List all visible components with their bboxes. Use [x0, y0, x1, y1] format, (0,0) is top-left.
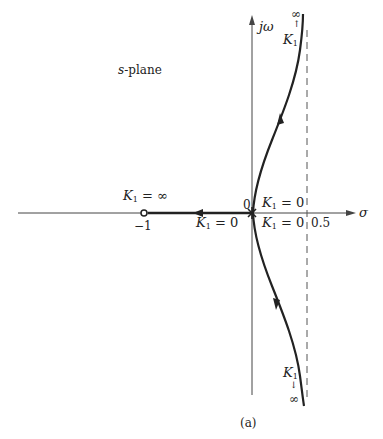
origin-label: 0: [243, 199, 251, 211]
real-axis-label: σ: [359, 206, 368, 219]
top-arrow-icon: ↑: [293, 20, 301, 29]
bottom-k-label: K1: [283, 366, 298, 381]
zero-gain-label: K1 = ∞: [123, 189, 168, 204]
pole-gain-label-left: K1 = 0: [196, 216, 238, 231]
pole-gain-label-right: K1 = 0: [262, 216, 304, 231]
bottom-infinity-label: ∞: [289, 393, 299, 405]
figure-caption: (a): [240, 417, 257, 429]
imag-axis-label: jω: [259, 20, 274, 33]
plane-label: s-plane: [118, 64, 162, 76]
top-k-label: K1: [283, 33, 298, 48]
zero-marker-icon: [141, 210, 147, 216]
tick-label-half: 0.5: [311, 217, 330, 229]
imag-axis-arrow-icon: [249, 15, 255, 25]
pole-gain-label-upper: K1 = 0: [262, 196, 304, 211]
bottom-arrow-icon: ↓: [290, 381, 298, 390]
tick-label-minus-one: −1: [134, 220, 152, 232]
real-axis-arrow-icon: [346, 210, 356, 216]
